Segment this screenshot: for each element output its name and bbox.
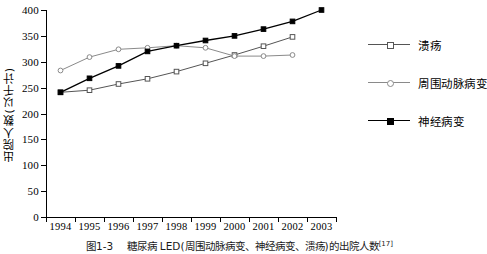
caption-reference: [17] xyxy=(379,240,393,248)
data-point-marker xyxy=(58,90,63,95)
y-tick-label: 400 xyxy=(22,5,39,16)
data-point-marker xyxy=(261,54,266,59)
data-point-marker xyxy=(261,27,266,32)
legend: 溃疡周围动脉病变神经病变 xyxy=(368,38,478,152)
x-tick-label: 1994 xyxy=(50,221,72,232)
y-tick-label: 300 xyxy=(22,56,39,67)
legend-item[interactable]: 神经病变 xyxy=(368,114,478,128)
data-point-marker xyxy=(290,53,295,58)
legend-label: 溃疡 xyxy=(418,37,441,53)
x-tick-label: 2001 xyxy=(253,221,275,232)
data-point-marker xyxy=(87,76,92,81)
data-point-marker xyxy=(174,43,179,48)
x-tick-label: 1997 xyxy=(137,221,159,232)
legend-marker xyxy=(387,42,394,49)
caption-text: 糖尿病 LED(周围动脉病变、神经病变、溃疡)的出院人数 xyxy=(127,240,379,252)
data-point-marker xyxy=(174,69,179,74)
legend-swatch xyxy=(368,77,410,89)
data-point-marker xyxy=(87,55,92,60)
legend-marker xyxy=(387,80,394,87)
x-tick-label: 1995 xyxy=(79,221,101,232)
y-tick-label: 150 xyxy=(22,134,39,145)
x-tick-label: 1998 xyxy=(166,221,188,232)
data-point-marker xyxy=(319,8,324,13)
legend-swatch xyxy=(368,39,410,51)
data-point-marker xyxy=(116,82,121,87)
y-axis-title: 出院人数(以千计) xyxy=(2,10,18,218)
series-line xyxy=(61,46,293,71)
caption-number: 图1-3 xyxy=(86,240,113,252)
legend-label: 神经病变 xyxy=(418,113,464,129)
y-tick-label: 250 xyxy=(22,82,39,93)
legend-item[interactable]: 溃疡 xyxy=(368,38,478,52)
plot-area: 050100150200250300350400 199419951996199… xyxy=(46,10,336,218)
data-point-marker xyxy=(116,47,121,52)
legend-item[interactable]: 周围动脉病变 xyxy=(368,76,478,90)
y-tick-label: 350 xyxy=(22,30,39,41)
y-tick-label: 50 xyxy=(28,186,39,197)
x-tick-label: 1999 xyxy=(195,221,217,232)
series-line xyxy=(61,10,322,92)
figure-caption: 图1-3 糖尿病 LED(周围动脉病变、神经病变、溃疡)的出院人数[17] xyxy=(0,238,479,253)
series-lines xyxy=(46,10,336,218)
legend-marker xyxy=(387,118,394,125)
data-point-marker xyxy=(290,35,295,40)
data-point-marker xyxy=(261,44,266,49)
data-point-marker xyxy=(145,77,150,82)
x-tick-label: 2002 xyxy=(282,221,304,232)
x-tick-label: 2003 xyxy=(311,221,333,232)
y-axis-title-label: 出院人数(以千计) xyxy=(2,67,18,162)
y-tick-label: 200 xyxy=(22,108,39,119)
x-tick-mark xyxy=(336,217,337,222)
data-point-marker xyxy=(58,68,63,73)
data-point-marker xyxy=(145,49,150,54)
data-point-marker xyxy=(203,61,208,66)
x-tick-label: 1996 xyxy=(108,221,130,232)
data-point-marker xyxy=(232,54,237,59)
x-tick-label: 2000 xyxy=(224,221,246,232)
data-point-marker xyxy=(232,34,237,39)
data-point-marker xyxy=(290,19,295,24)
y-tick-label: 0 xyxy=(33,212,39,223)
legend-swatch xyxy=(368,115,410,127)
data-point-marker xyxy=(87,88,92,93)
data-point-marker xyxy=(203,45,208,50)
data-point-marker xyxy=(116,64,121,69)
data-point-marker xyxy=(203,38,208,43)
y-tick-label: 100 xyxy=(22,160,39,171)
legend-label: 周围动脉病变 xyxy=(418,75,487,91)
